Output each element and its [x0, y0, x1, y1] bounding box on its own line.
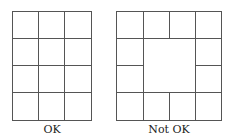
- ok-grid: [13, 12, 92, 121]
- not-ok-grid: [117, 12, 222, 121]
- diagram-canvas: [0, 0, 233, 137]
- ok-label: OK: [2, 123, 102, 136]
- not-ok-label: Not OK: [119, 123, 219, 136]
